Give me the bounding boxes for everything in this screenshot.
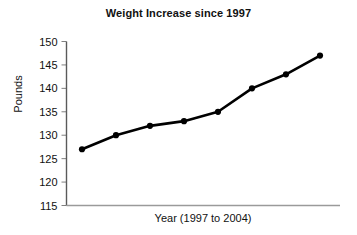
y-tick-label: 135 bbox=[39, 106, 57, 118]
data-point-marker: 1998: 130 bbox=[113, 132, 119, 138]
y-axis-ticks: 115120125130135140145150 bbox=[39, 36, 66, 212]
y-tick-label: 120 bbox=[39, 176, 57, 188]
chart-container: Weight Increase since 1997 Pounds 115120… bbox=[0, 0, 357, 235]
y-tick-label: 115 bbox=[40, 200, 58, 212]
data-point-marker: 1997: 127 bbox=[79, 146, 85, 152]
data-point-marker: 1999: 132 bbox=[147, 123, 153, 129]
y-tick-label: 150 bbox=[39, 36, 57, 48]
data-series-weight: 1997: 1271998: 1301999: 1322000: 1332001… bbox=[79, 52, 323, 152]
data-point-marker: 2000: 133 bbox=[181, 118, 187, 124]
data-point-marker: 2002: 140 bbox=[249, 85, 255, 91]
y-tick-label: 130 bbox=[39, 129, 57, 141]
data-point-marker: 2004: 147 bbox=[317, 52, 323, 58]
y-tick-label: 125 bbox=[39, 153, 57, 165]
plot-area: 115120125130135140145150 1997: 1271998: … bbox=[0, 0, 357, 235]
data-point-marker: 2003: 143 bbox=[283, 71, 289, 77]
y-tick-label: 140 bbox=[39, 82, 57, 94]
data-point-marker: 2001: 135 bbox=[215, 109, 221, 115]
y-tick-label: 145 bbox=[39, 59, 57, 71]
x-axis-title: Year (1997 to 2004) bbox=[66, 212, 340, 224]
